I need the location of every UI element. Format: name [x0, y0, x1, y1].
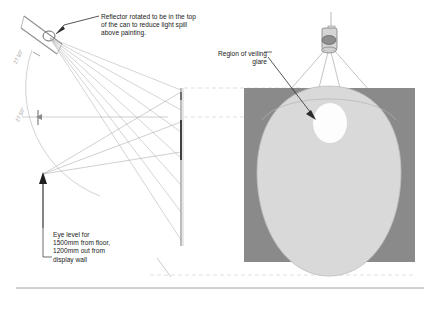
veiling-glare-spot	[313, 103, 347, 143]
lower-guide-tick	[157, 258, 171, 277]
angle-arc	[26, 50, 100, 196]
reflector-leader	[56, 16, 99, 34]
arc-tick-marks	[33, 52, 40, 56]
light-ray-fan	[50, 38, 181, 240]
eye-point-arrow	[39, 172, 47, 228]
veiling-glare-note: Region of veiling glare	[205, 50, 267, 66]
eye-level-note-bracket	[43, 228, 52, 257]
reflector-rotation-note: Reflector rotated to be in the top of th…	[101, 13, 196, 38]
eye-level-reference-line	[22, 110, 168, 125]
luminaire-can	[21, 16, 62, 54]
ceiling-mounted-can	[322, 28, 338, 53]
eye-level-note: Eye level for 1500mm from floor, 1200mm …	[53, 231, 110, 264]
display-wall	[181, 88, 183, 246]
diagram-canvas: Reflector rotated to be in the top of th…	[0, 0, 434, 309]
